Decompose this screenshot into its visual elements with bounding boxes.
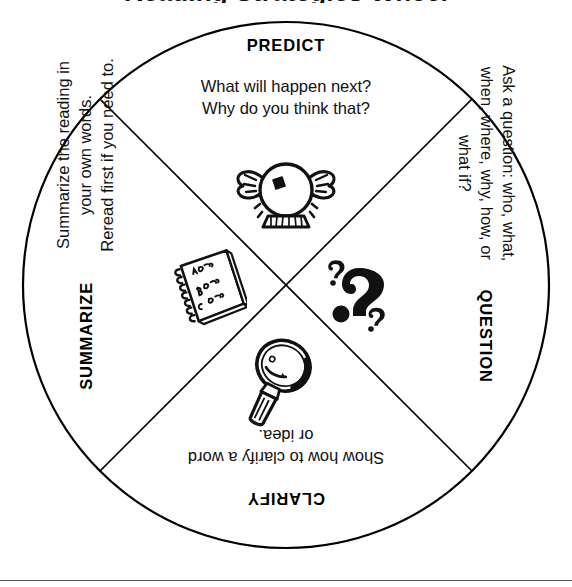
quadrant-question-line-3: what if? — [453, 65, 475, 261]
quadrant-question-line-2: when, where, why, how, or — [475, 65, 497, 261]
quadrant-clarify: CLARIFY Show how to clarify a word or id… — [21, 424, 551, 508]
quadrant-clarify-heading: CLARIFY — [21, 489, 551, 508]
quadrant-summarize-line-1: Summarize the reading in — [53, 58, 75, 252]
reading-strategies-wheel: PREDICT What will happen next? Why do yo… — [21, 20, 551, 550]
quadrant-clarify-line-1: Show how to clarify a word — [21, 446, 551, 468]
quadrant-summarize-line-3: Reread first if you need to. — [97, 58, 119, 252]
quadrant-question-body: Ask a question: who, what, when, where, … — [453, 65, 519, 261]
crystal-ball-icon — [232, 142, 340, 242]
quadrant-question: QUESTION Ask a question: who, what, when… — [421, 20, 551, 428]
question-marks-icon — [319, 250, 405, 336]
notebook-icon — [169, 244, 247, 332]
bottom-divider-rule — [0, 580, 572, 581]
quadrant-summarize-body: Summarize the reading in your own words.… — [53, 58, 119, 252]
quadrant-summarize: SUMMARIZE Summarize the reading in your … — [21, 20, 151, 428]
page-title: Reading Strategies Wheel — [0, 0, 572, 3]
quadrant-summarize-heading: SUMMARIZE — [77, 282, 96, 390]
magnifier-icon — [233, 331, 319, 431]
quadrant-question-line-1: Ask a question: who, what, — [497, 65, 519, 261]
quadrant-question-heading: QUESTION — [477, 289, 496, 382]
quadrant-summarize-line-2: your own words. — [75, 58, 97, 252]
